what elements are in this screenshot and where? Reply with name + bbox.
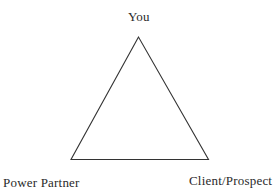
- node-label-you: You: [128, 10, 150, 23]
- triangle-diagram: You Power Partner Client/Prospect: [0, 0, 278, 189]
- triangle-outline: [71, 37, 209, 160]
- triangle-shape: [0, 0, 278, 189]
- node-label-power-partner: Power Partner: [3, 176, 80, 189]
- node-label-client-prospect: Client/Prospect: [189, 174, 272, 187]
